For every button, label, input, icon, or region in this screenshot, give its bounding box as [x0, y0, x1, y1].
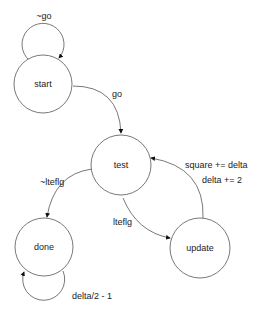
transition-start-self: ~go — [22, 11, 64, 60]
label-delta-half: delta/2 - 1 — [72, 291, 112, 301]
label-go: go — [112, 89, 122, 99]
state-test-label: test — [114, 160, 129, 170]
transition-done-self: delta/2 - 1 — [23, 271, 112, 301]
transition-test-done: ~lteflg — [40, 169, 92, 217]
state-done: done — [15, 218, 73, 276]
transition-test-update: lteflg — [113, 198, 170, 238]
state-done-label: done — [34, 242, 54, 252]
label-lteflg: lteflg — [113, 217, 132, 227]
state-update-label: update — [186, 243, 214, 253]
state-diagram: ~go go ~lteflg lteflg square += delta de… — [0, 0, 254, 324]
label-delta-update: delta += 2 — [202, 175, 242, 185]
state-start-label: start — [34, 79, 52, 89]
state-start: start — [14, 55, 72, 113]
transition-update-test: square += delta delta += 2 — [151, 158, 248, 218]
transition-start-test: go — [73, 86, 122, 133]
label-not-go: ~go — [36, 11, 51, 21]
state-update: update — [170, 218, 230, 278]
label-square-update: square += delta — [185, 160, 248, 170]
label-not-lteflg: ~lteflg — [40, 177, 64, 187]
state-test: test — [91, 135, 151, 195]
